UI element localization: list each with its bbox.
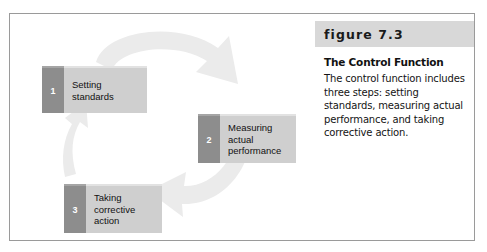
step-box-3: 3 Taking corrective action [64,184,162,233]
step-3-line-1: Taking [94,192,135,204]
step-number-3: 3 [64,184,86,233]
figure-caption-title: The Control Function [324,56,444,68]
step-1-line-2: standards [72,91,114,103]
figure-container: 1 Setting standards 2 Measuring actual p… [0,0,487,252]
step-number-1: 1 [42,66,64,113]
figure-frame: 1 Setting standards 2 Measuring actual p… [9,13,475,241]
figure-number-label: figure 7.3 [324,27,404,42]
step-3-line-3: action [94,215,135,227]
step-3-line-2: corrective [94,204,135,216]
step-1-line-1: Setting [72,79,114,91]
step-label-2: Measuring actual performance [220,114,296,163]
step-2-line-2: actual [228,134,281,146]
step-box-2: 2 Measuring actual performance [198,114,296,163]
step-box-1: 1 Setting standards [42,66,147,113]
step-2-line-1: Measuring [228,122,281,134]
step-number-2: 2 [198,114,220,163]
cycle-diagram: 1 Setting standards 2 Measuring actual p… [10,14,306,240]
arrow-3-to-1-icon [63,102,88,177]
step-label-1: Setting standards [64,66,147,113]
figure-caption-panel: figure 7.3 The Control Function The cont… [306,14,474,240]
step-label-3: Taking corrective action [86,184,162,233]
figure-caption-body: The control function includes three step… [324,72,466,140]
step-2-line-3: performance [228,145,281,157]
